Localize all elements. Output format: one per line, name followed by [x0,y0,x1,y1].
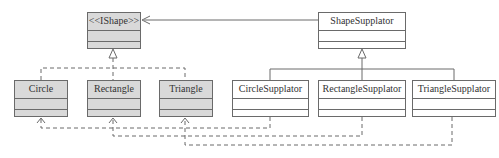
operations-compartment [160,110,212,116]
class-rectangle-supplator[interactable]: RectangleSupplator [318,80,406,117]
dependency-rectangle [113,117,362,136]
attributes-compartment [160,99,212,110]
class-shape-supplator[interactable]: ShapeSupplator [318,12,406,49]
dependency-circle [41,117,270,128]
operations-compartment [88,42,140,48]
attributes-compartment [88,31,140,42]
class-name: Circle [15,81,67,99]
class-ishape[interactable]: <<IShape>> [87,12,141,49]
class-rectangle[interactable]: Rectangle [87,80,141,117]
hollow-triangle-icon [109,49,117,58]
operations-compartment [319,110,405,116]
class-name: TriangleSupplator [413,81,495,99]
dependency-triangle [185,117,452,145]
uml-class-diagram: <<IShape>> ShapeSupplator Circle Rectang… [0,0,499,158]
attributes-compartment [88,99,140,110]
operations-compartment [319,42,405,48]
attributes-compartment [319,31,405,42]
class-circle-supplator[interactable]: CircleSupplator [232,80,309,117]
attributes-compartment [413,99,495,110]
connectors [0,0,499,158]
operations-compartment [15,110,67,116]
attributes-compartment [233,99,308,110]
class-name: ShapeSupplator [319,13,405,31]
class-name: Triangle [160,81,212,99]
class-triangle-supplator[interactable]: TriangleSupplator [412,80,496,117]
class-name: RectangleSupplator [319,81,405,99]
class-name: <<IShape>> [88,13,140,31]
hollow-triangle-icon [358,49,366,58]
class-name: CircleSupplator [233,81,308,99]
attributes-compartment [15,99,67,110]
class-name: Rectangle [88,81,140,99]
class-circle[interactable]: Circle [14,80,68,117]
class-triangle[interactable]: Triangle [159,80,213,117]
operations-compartment [88,110,140,116]
attributes-compartment [319,99,405,110]
operations-compartment [413,110,495,116]
operations-compartment [233,110,308,116]
